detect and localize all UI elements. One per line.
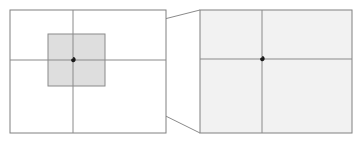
magnified-panel	[200, 10, 352, 133]
spiral-figure	[0, 0, 363, 145]
overview-panel	[10, 10, 166, 133]
magnified-panel-frame	[200, 10, 352, 133]
figure-container	[0, 0, 363, 145]
